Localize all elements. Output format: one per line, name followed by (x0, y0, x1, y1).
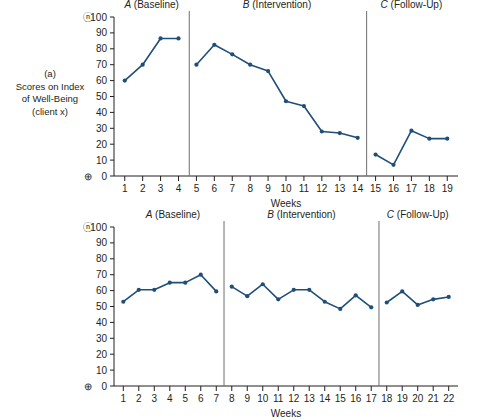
y-axis-top-symbol: ⓝ (83, 222, 93, 233)
y-tick-label: 30 (96, 333, 108, 344)
x-tick-label: 8 (229, 393, 235, 404)
panel-a-plot: 0102030405060708090100ⓝ⊕1234567891011121… (0, 0, 487, 210)
data-point-marker (302, 104, 306, 108)
data-point-marker (356, 136, 360, 140)
x-tick-label: 15 (335, 393, 347, 404)
y-tick-label: 0 (101, 171, 107, 182)
data-series-line (196, 45, 357, 138)
y-tick-label: 30 (96, 123, 108, 134)
data-point-marker (284, 99, 288, 103)
x-tick-label: 10 (257, 393, 269, 404)
phase-label: B (Intervention) (267, 209, 335, 220)
phase-label: B (Intervention) (243, 0, 311, 10)
x-tick-label: 12 (288, 393, 300, 404)
phase-label: C (Follow-Up) (387, 209, 449, 220)
x-tick-label: 6 (198, 393, 204, 404)
y-tick-label: 60 (96, 75, 108, 86)
data-point-marker (194, 63, 198, 67)
data-point-marker (261, 282, 265, 286)
panel-b-client-y: (b) Scores on Index of Well-Being (clien… (0, 205, 487, 420)
data-point-marker (385, 300, 389, 304)
data-point-marker (199, 273, 203, 277)
data-point-marker (307, 288, 311, 292)
x-tick-label: 9 (244, 393, 250, 404)
x-tick-label: 14 (352, 183, 364, 194)
phase-label: A (Baseline) (145, 209, 200, 220)
x-tick-label: 16 (388, 183, 400, 194)
data-point-marker (214, 289, 218, 293)
x-tick-label: 16 (350, 393, 362, 404)
figure-single-subject-design: (a) Scores on Index of Well-Being (clien… (0, 0, 487, 420)
data-point-marker (400, 289, 404, 293)
data-point-marker (137, 288, 141, 292)
data-point-marker (121, 300, 125, 304)
data-point-marker (245, 294, 249, 298)
x-tick-label: 17 (406, 183, 418, 194)
x-tick-label: 12 (316, 183, 328, 194)
panel-b-plot: 0102030405060708090100ⓝ⊕1234567891011121… (0, 205, 487, 420)
y-tick-label: 80 (96, 43, 108, 54)
x-tick-label: 20 (412, 393, 424, 404)
data-point-marker (176, 36, 180, 40)
x-tick-label: 15 (370, 183, 382, 194)
x-tick-label: 2 (136, 393, 142, 404)
x-tick-label: 13 (304, 393, 316, 404)
y-tick-label: 80 (96, 253, 108, 264)
x-tick-label: 5 (182, 393, 188, 404)
x-tick-label: 11 (299, 183, 310, 194)
data-point-marker (409, 129, 413, 133)
data-series-line (232, 284, 371, 309)
x-tick-label: 7 (229, 183, 235, 194)
data-point-marker (152, 288, 156, 292)
x-tick-label: 4 (167, 393, 173, 404)
data-point-marker (168, 281, 172, 285)
x-tick-label: 13 (334, 183, 346, 194)
y-tick-label: 40 (96, 317, 108, 328)
x-tick-label: 18 (424, 183, 436, 194)
y-tick-label: 40 (96, 107, 108, 118)
x-tick-label: 22 (443, 393, 455, 404)
y-tick-label: 10 (96, 365, 108, 376)
x-tick-label: 2 (140, 183, 146, 194)
y-tick-label: 0 (101, 381, 107, 392)
data-point-marker (292, 288, 296, 292)
data-point-marker (276, 297, 280, 301)
data-point-marker (373, 152, 377, 156)
phase-label: A (Baseline) (123, 0, 178, 10)
x-tick-label: 3 (158, 183, 164, 194)
data-point-marker (338, 307, 342, 311)
y-tick-label: 70 (96, 269, 108, 280)
data-point-marker (416, 303, 420, 307)
panel-a-client-x: (a) Scores on Index of Well-Being (clien… (0, 0, 487, 210)
data-point-marker (248, 63, 252, 67)
data-point-marker (230, 285, 234, 289)
y-tick-label: 10 (96, 155, 108, 166)
y-tick-label: 60 (96, 285, 108, 296)
data-point-marker (391, 163, 395, 167)
x-tick-label: 18 (381, 393, 393, 404)
x-tick-label: 8 (247, 183, 253, 194)
data-series-line (125, 38, 179, 80)
data-point-marker (431, 297, 435, 301)
x-tick-label: 7 (213, 393, 219, 404)
y-tick-label: 50 (96, 301, 108, 312)
data-point-marker (338, 131, 342, 135)
data-point-marker (183, 281, 187, 285)
x-tick-label: 3 (152, 393, 158, 404)
data-point-marker (445, 137, 449, 141)
x-tick-label: 10 (280, 183, 292, 194)
x-tick-label: 9 (265, 183, 271, 194)
y-tick-label: 90 (96, 27, 108, 38)
phase-label: C (Follow-Up) (381, 0, 443, 10)
data-point-marker (123, 79, 127, 83)
y-tick-label: 70 (96, 59, 108, 70)
x-tick-label: 1 (122, 183, 128, 194)
y-tick-label: 50 (96, 91, 108, 102)
data-point-marker (447, 295, 451, 299)
y-tick-label: 20 (96, 349, 108, 360)
data-point-marker (369, 305, 373, 309)
data-series-line (123, 275, 216, 302)
data-point-marker (427, 137, 431, 141)
x-tick-label: 19 (397, 393, 409, 404)
data-point-marker (354, 293, 358, 297)
